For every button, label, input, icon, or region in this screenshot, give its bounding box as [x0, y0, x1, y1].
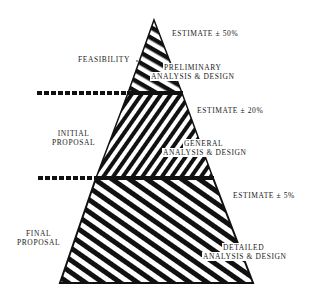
- divider-2: [95, 176, 214, 180]
- dot-mark: [136, 60, 138, 62]
- layer-label-general: GENERAL: [183, 139, 224, 148]
- stage-label-feasibility: FEASIBILITY: [78, 55, 130, 64]
- divider-1: [127, 91, 183, 95]
- layer-label-detailed: DETAILED: [222, 243, 265, 252]
- layer-detailed: [60, 178, 253, 283]
- layer-label-detailed-sub: ANALYSIS & DESIGN: [202, 252, 288, 261]
- layer-label-preliminary: PRELIMINARY: [163, 63, 222, 72]
- layer-label-general-sub: ANALYSIS & DESIGN: [162, 148, 248, 157]
- estimate-label-5: ESTIMATE ± 5%: [233, 191, 295, 200]
- estimate-label-20: ESTIMATE ± 20%: [197, 106, 263, 115]
- base-line: [59, 282, 254, 284]
- stage-label-initial-proposal: INITIAL PROPOSAL: [52, 129, 95, 147]
- stage-label-final-proposal: FINAL PROPOSAL: [17, 229, 60, 247]
- layer-general: [96, 93, 213, 178]
- layer-label-preliminary-sub: ANALYSIS & DESIGN: [150, 72, 236, 81]
- estimate-label-50: ESTIMATE ± 50%: [172, 29, 238, 38]
